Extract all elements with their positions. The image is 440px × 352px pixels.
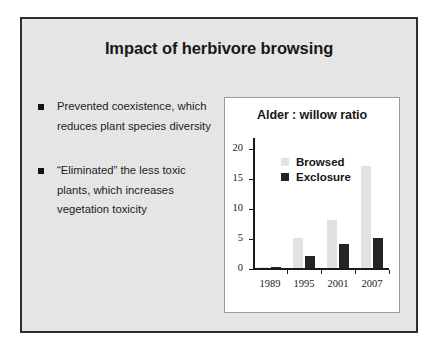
square-bullet-icon: [38, 104, 44, 110]
chart-panel: Alder : willow ratio 05101520 1989199520…: [224, 97, 400, 313]
y-axis: [253, 138, 255, 270]
legend-swatch-browsed: [281, 158, 289, 166]
bullet-item-2-text: “Eliminated” the less toxic plants, whic…: [57, 164, 186, 215]
bar-exclosure-2001: [339, 244, 350, 268]
square-bullet-icon: [38, 168, 44, 174]
bar-browsed-2001: [327, 220, 338, 268]
legend-entry-browsed: Browsed: [281, 154, 351, 169]
legend-entry-exclosure: Exclosure: [281, 169, 351, 184]
chart-legend: Browsed Exclosure: [281, 154, 351, 184]
bar-browsed-1995: [293, 238, 304, 268]
y-axis-tick-label: 0: [238, 262, 243, 273]
bullet-item-1: Prevented coexistence, which reduces pla…: [36, 97, 218, 136]
slide-title: Impact of herbivore browsing: [22, 39, 416, 58]
x-axis-label-1995: 1995: [287, 278, 321, 289]
legend-label-browsed: Browsed: [296, 156, 345, 168]
y-axis-tick-label: 5: [238, 232, 243, 243]
legend-label-exclosure: Exclosure: [296, 171, 351, 183]
bullet-list: Prevented coexistence, which reduces pla…: [36, 97, 218, 245]
y-axis-tick-label: 10: [233, 202, 244, 213]
y-axis-tick: 0: [249, 269, 253, 270]
y-axis-tick: 5: [249, 239, 253, 240]
y-axis-tick-label: 20: [233, 142, 244, 153]
bar-exclosure-1995: [305, 256, 316, 268]
y-axis-tick: 20: [249, 149, 253, 150]
presentation-slide: Impact of herbivore browsing Prevented c…: [20, 17, 418, 333]
legend-swatch-exclosure: [281, 173, 289, 181]
bar-exclosure-2007: [373, 238, 384, 268]
x-axis-labels: 1989199520012007: [253, 278, 389, 294]
x-axis-label-1989: 1989: [253, 278, 287, 289]
x-axis-tick: [287, 270, 288, 274]
y-axis-tick-label: 15: [233, 172, 244, 183]
chart-title: Alder : willow ratio: [225, 108, 399, 122]
x-axis-tick: [389, 270, 390, 274]
bar-exclosure-1989: [271, 267, 282, 269]
x-axis-label-2001: 2001: [321, 278, 355, 289]
bullet-item-2: “Eliminated” the less toxic plants, whic…: [36, 161, 218, 220]
x-axis-tick: [355, 270, 356, 274]
y-axis-tick: 15: [249, 179, 253, 180]
x-axis-tick: [321, 270, 322, 274]
bar-browsed-2007: [361, 166, 372, 268]
x-axis-label-2007: 2007: [355, 278, 389, 289]
y-axis-tick: 10: [249, 209, 253, 210]
bar-browsed-1989: [259, 267, 270, 268]
bullet-item-1-text: Prevented coexistence, which reduces pla…: [57, 100, 211, 132]
